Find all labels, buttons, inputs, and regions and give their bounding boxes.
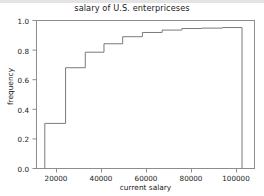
xtick-label-2: 60000	[124, 174, 168, 183]
chart-figure: salary of U.S. enterpriceses 0.0 0.2 0.4…	[0, 0, 264, 196]
x-axis-ticks	[57, 169, 237, 173]
ytick-label-5: 1.0	[7, 17, 29, 26]
ytick-label-1: 0.2	[7, 135, 29, 144]
xtick-label-3: 80000	[169, 174, 213, 183]
ecdf-step-curve	[45, 28, 242, 169]
ytick-label-0: 0.0	[7, 165, 29, 174]
xtick-label-0: 20000	[34, 174, 78, 183]
y-axis-label: frequency	[6, 52, 15, 122]
xtick-label-4: 100000	[214, 174, 258, 183]
x-axis-label: current salary	[36, 183, 255, 192]
xtick-label-1: 40000	[79, 174, 123, 183]
axes-frame	[37, 21, 255, 169]
plot-canvas	[0, 0, 264, 196]
y-axis-ticks	[33, 21, 37, 169]
